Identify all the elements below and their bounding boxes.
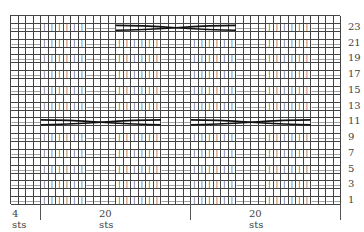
- row-number-label: 17: [348, 68, 361, 79]
- chart-grid: ————||||||————————||||||————————||||||——…: [10, 15, 340, 204]
- row-number-label: 9: [348, 131, 354, 142]
- stitch-count-label: 4 sts: [12, 208, 26, 230]
- cable-crossings: [11, 16, 341, 205]
- section-divider: [190, 204, 191, 220]
- row-number-label: 15: [348, 84, 361, 95]
- row-number-label: 23: [348, 21, 361, 32]
- row-number-label: 7: [348, 147, 354, 158]
- section-divider: [40, 204, 41, 220]
- section-divider: [340, 204, 341, 220]
- row-number-label: 5: [348, 163, 354, 174]
- row-number-label: 3: [348, 178, 354, 189]
- row-number-label: 13: [348, 100, 361, 111]
- row-number-label: 11: [348, 115, 361, 126]
- stitch-count-label: 20 sts: [99, 208, 113, 230]
- stitch-count-label: 20 sts: [249, 208, 263, 230]
- row-number-label: 19: [348, 52, 361, 63]
- row-number-label: 1: [348, 194, 354, 205]
- row-number-label: 21: [348, 37, 361, 48]
